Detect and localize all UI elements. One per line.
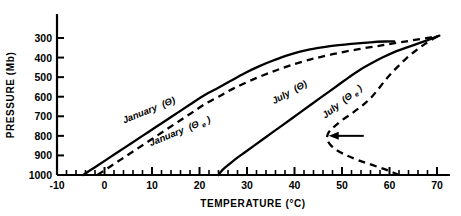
x-tick-label: 10 [146,179,158,191]
x-tick-label: 30 [241,179,253,191]
svg-text:July (Θ e: July (Θ e ) [320,82,366,122]
x-tick-label: 50 [336,179,348,191]
chart-svg: 3004005006007008009001000 -1001020304050… [0,0,461,216]
x-tick-label: 60 [384,179,396,191]
x-tick-label: 20 [194,179,206,191]
figure-container: 3004005006007008009001000 -1001020304050… [0,0,461,216]
january-thetae-paren: ) [204,113,212,125]
y-axis-title: PRESSURE (Mb) [5,52,16,139]
january-thetae-subscript: e [201,121,207,129]
july-theta-symbol: (Θ) [291,78,308,94]
y-tick-labels: 3004005006007008009001000 [29,32,53,181]
y-tick-label: 700 [34,110,52,122]
axis-lines [57,14,450,175]
svg-text:July (Θ): July (Θ) [270,78,309,106]
x-tick-labels: -10010203040506070 [49,179,443,191]
y-tick-label: 600 [34,91,52,103]
svg-text:January (Θ e: January (Θ e ) [147,113,212,150]
x-tick-label: 0 [102,179,108,191]
nose-arrow-annotation [329,132,364,140]
january-theta-text: January [121,101,160,125]
y-tick-label: 500 [34,71,52,83]
label-january-theta: January (Θ) [121,94,177,125]
x-tick-label: 40 [289,179,301,191]
label-july-theta: July (Θ) [270,78,309,106]
y-tick-label: 900 [34,149,52,161]
label-january-thetae: January (Θ e ) [147,113,212,150]
january-thetae-symbol: (Θ [187,118,201,132]
label-july-thetae: July (Θ e ) [320,82,366,122]
x-tick-label: 70 [431,179,443,191]
x-tick-label: -10 [49,179,64,191]
y-tick-label: 800 [34,130,52,142]
july-thetae-text: July [320,99,342,120]
y-tick-label: 300 [34,32,52,44]
january-theta-symbol: (Θ) [160,94,177,109]
svg-text:January (Θ): January (Θ) [121,94,177,125]
x-axis-title: TEMPERATURE (°C) [200,198,306,209]
y-tick-label: 400 [34,52,52,64]
data-curves [83,36,439,175]
july-theta-text: July [270,87,293,106]
